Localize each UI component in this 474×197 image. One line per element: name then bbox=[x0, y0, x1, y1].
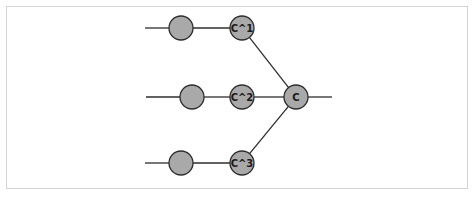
aggregate-edge bbox=[250, 106, 289, 153]
ensemble-diagram: C^1C^2C^3C bbox=[0, 0, 474, 197]
unlabeled-node bbox=[180, 85, 204, 109]
output-node: C bbox=[284, 85, 308, 109]
node-label: C^1 bbox=[231, 23, 254, 34]
node-circle bbox=[169, 151, 193, 175]
unlabeled-node bbox=[169, 151, 193, 175]
node-label: C^2 bbox=[231, 92, 254, 103]
classifier-node-3: C^3 bbox=[230, 151, 254, 175]
classifier-node-1: C^1 bbox=[230, 16, 254, 40]
node-label: C^3 bbox=[231, 158, 254, 169]
aggregate-edge bbox=[249, 37, 288, 87]
classifier-node-2: C^2 bbox=[230, 85, 254, 109]
unlabeled-node bbox=[169, 16, 193, 40]
node-circle bbox=[169, 16, 193, 40]
node-circle bbox=[180, 85, 204, 109]
node-label: C bbox=[292, 92, 299, 103]
